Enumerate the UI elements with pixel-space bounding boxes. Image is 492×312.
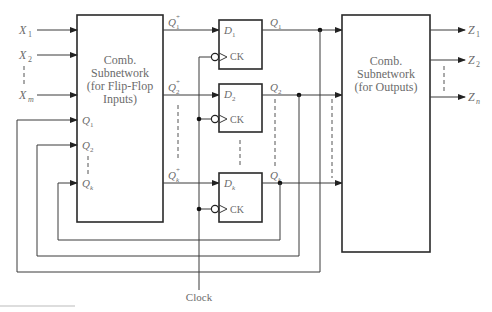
- clock-line: [197, 57, 211, 290]
- left-block-line-2: Subnetwork: [91, 66, 149, 80]
- svg-text:+: +: [176, 166, 180, 174]
- flip-flop-k: D k CK: [211, 173, 262, 222]
- left-block-line-4: Inputs): [103, 92, 137, 106]
- next-state-qk-plus: Q + k: [168, 166, 180, 184]
- svg-text:CK: CK: [230, 51, 245, 62]
- svg-text:+: +: [176, 13, 180, 21]
- svg-text:n: n: [476, 97, 480, 106]
- left-block-line-1: Comb.: [104, 53, 136, 67]
- svg-text:Q: Q: [168, 169, 176, 181]
- right-block-line-2: Subnetwork: [357, 67, 415, 81]
- svg-text:D: D: [223, 24, 232, 36]
- clock-invert-bubble-icon: [211, 115, 218, 122]
- svg-text:Q: Q: [270, 16, 278, 28]
- output-z1: Z 1: [430, 23, 480, 39]
- svg-text:Q: Q: [168, 16, 176, 28]
- svg-text:Z: Z: [468, 23, 475, 37]
- svg-text:X: X: [18, 23, 27, 37]
- svg-text:2: 2: [476, 60, 480, 69]
- flip-flop-2: D 2 CK: [211, 84, 262, 132]
- svg-text:2: 2: [28, 55, 32, 64]
- input-x1: X 1: [18, 23, 77, 39]
- right-block-line-1: Comb.: [370, 54, 402, 68]
- clock-invert-bubble-icon: [211, 205, 218, 212]
- circuit-diagram: Comb. Subnetwork (for Flip-Flop Inputs) …: [0, 0, 492, 312]
- clock-label: Clock: [186, 291, 213, 303]
- ff-output-qk: Q k: [262, 169, 342, 185]
- output-z2: Z 2: [430, 53, 480, 69]
- input-xm: X m: [18, 88, 77, 104]
- svg-text:CK: CK: [230, 114, 245, 125]
- svg-text:Q: Q: [270, 169, 278, 181]
- left-block-line-3: (for Flip-Flop: [87, 79, 153, 93]
- svg-text:Q: Q: [270, 81, 278, 93]
- svg-text:CK: CK: [230, 204, 245, 215]
- clock-invert-bubble-icon: [211, 53, 218, 60]
- svg-text:1: 1: [28, 30, 32, 39]
- svg-text:Z: Z: [468, 53, 475, 67]
- next-state-q1-plus: Q + 1: [168, 13, 180, 31]
- svg-text:X: X: [18, 88, 27, 102]
- svg-text:2: 2: [90, 146, 94, 154]
- svg-text:Q: Q: [82, 177, 90, 189]
- svg-text:1: 1: [232, 31, 236, 39]
- svg-text:D: D: [223, 177, 232, 189]
- svg-text:1: 1: [476, 30, 480, 39]
- svg-text:Q: Q: [168, 81, 176, 93]
- svg-text:X: X: [18, 48, 27, 62]
- output-zn: Z n: [430, 90, 480, 106]
- input-x2: X 2: [18, 48, 77, 64]
- svg-text:Z: Z: [468, 90, 475, 104]
- svg-text:m: m: [28, 95, 34, 104]
- svg-text:D: D: [223, 88, 232, 100]
- svg-text:Q: Q: [82, 139, 90, 151]
- right-block-line-3: (for Outputs): [355, 80, 418, 94]
- flip-flop-1: D 1 CK: [211, 20, 262, 69]
- next-state-q2-plus: Q + 2: [168, 78, 180, 96]
- svg-text:2: 2: [232, 95, 236, 103]
- svg-text:1: 1: [90, 121, 94, 129]
- ff-output-q2: Q 2: [262, 81, 342, 97]
- ff-output-q1: Q 1: [262, 16, 342, 32]
- comb-subnetwork-outputs: [342, 15, 430, 252]
- svg-text:+: +: [176, 78, 180, 86]
- svg-text:Q: Q: [82, 114, 90, 126]
